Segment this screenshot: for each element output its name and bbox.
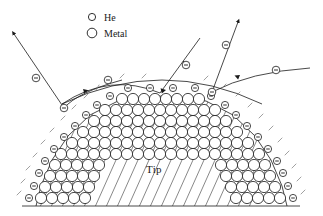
metal-row — [99, 104, 220, 115]
field-ion-microscope-figure: He Metal Tip — [0, 0, 323, 216]
metal-row — [66, 137, 253, 148]
legend-markers — [87, 13, 97, 37]
trajectory-right-outer — [212, 22, 238, 92]
legend-metal-marker — [87, 28, 97, 38]
figure-canvas — [0, 0, 323, 216]
tip-label: Tip — [146, 163, 162, 175]
legend-he-label: He — [104, 12, 116, 23]
legend-metal-label: Metal — [104, 28, 127, 39]
trajectory-left-outer — [14, 34, 64, 108]
metal-row — [77, 126, 242, 137]
legend-he-marker — [88, 13, 95, 20]
arrowhead-right-arc — [235, 75, 241, 80]
metal-row — [55, 148, 264, 159]
trajectory-right-arc — [212, 68, 310, 92]
